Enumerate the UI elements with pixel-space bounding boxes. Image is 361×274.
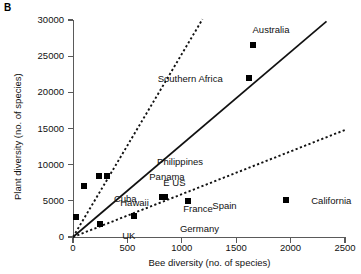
y-tick: [68, 92, 73, 93]
data-point-marker: [159, 194, 168, 200]
data-point-marker: [131, 213, 137, 219]
x-tick-label: 1500: [206, 243, 266, 253]
lower-dashed-line: [73, 130, 345, 237]
data-point-label: Spain: [212, 201, 236, 211]
data-point-label: Germany: [180, 224, 219, 234]
x-tick-label: 1000: [152, 243, 212, 253]
data-point-label: Southern Africa: [158, 74, 223, 84]
data-point-label: California: [311, 196, 351, 206]
y-tick-label: 15000: [0, 124, 64, 134]
y-tick-label: 30000: [0, 15, 64, 25]
data-point-label: Cuba: [114, 194, 137, 204]
data-point-marker: [246, 75, 252, 81]
data-point-marker: [97, 221, 103, 227]
data-point-label: E US: [163, 178, 185, 188]
y-tick: [68, 164, 73, 165]
x-tick-label: 2500: [315, 243, 361, 253]
y-tick-label: 25000: [0, 51, 64, 61]
data-point-marker: [283, 197, 289, 203]
y-tick-label: 5000: [0, 196, 64, 206]
y-tick: [68, 128, 73, 129]
y-tick: [68, 56, 73, 57]
x-tick-label: 0: [43, 243, 103, 253]
y-tick-label: 10000: [0, 160, 64, 170]
data-point-marker: [73, 214, 79, 220]
data-point-marker: [81, 183, 87, 189]
figure-panel-b: B Plant diversity (no. of species) Bee d…: [0, 0, 361, 274]
data-point-label: France: [183, 204, 213, 214]
data-point-marker: [185, 198, 191, 204]
data-point-marker: [104, 173, 110, 179]
y-tick-label: 0: [0, 232, 64, 242]
x-tick-label: 500: [97, 243, 157, 253]
data-point-marker: [250, 42, 256, 48]
y-tick: [68, 200, 73, 201]
x-axis-line: [73, 237, 346, 238]
x-tick-label: 2000: [261, 243, 321, 253]
data-point-label: Australia: [253, 25, 290, 35]
y-tick-label: 20000: [0, 87, 64, 97]
y-tick: [68, 19, 73, 20]
x-axis-title: Bee diversity (no. of species): [73, 257, 346, 268]
y-axis-line: [73, 20, 74, 238]
data-point-label: UK: [122, 231, 135, 241]
scatter-plot: Plant diversity (no. of species) Bee div…: [0, 0, 361, 274]
data-point-label: Philippines: [157, 157, 203, 167]
data-point-marker: [96, 173, 102, 179]
